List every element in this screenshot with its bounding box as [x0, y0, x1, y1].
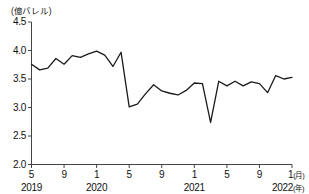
chart-series-lines: [32, 51, 293, 122]
y-axis-tick-label: 2.5: [2, 130, 26, 141]
y-axis-tick-label: 3.5: [2, 73, 26, 84]
x-axis-tick-label: 5: [117, 169, 141, 180]
y-axis-ticks: [28, 22, 32, 165]
chart-axes: [32, 22, 293, 165]
x-axis-tick-label: 1: [182, 169, 206, 180]
x-axis-tick-suffix: (月): [293, 171, 304, 180]
x-axis-year-suffix: (年): [293, 184, 304, 193]
x-axis-tick-label: 9: [247, 169, 271, 180]
y-axis-tick-label: 4.5: [2, 16, 26, 27]
x-axis-tick-label: 9: [52, 169, 76, 180]
x-axis-year-label: 2021: [172, 182, 216, 193]
x-axis-year-label: 2019: [10, 182, 54, 193]
x-axis-year-label: 2020: [75, 182, 119, 193]
x-axis-tick-label: 5: [215, 169, 239, 180]
x-axis-year-label: 2022(年): [272, 182, 309, 193]
x-axis-tick-label: 1(月): [288, 169, 309, 180]
x-axis-ticks: [32, 165, 293, 169]
y-axis-tick-label: 3.0: [2, 102, 26, 113]
y-axis-tick-label: 4.0: [2, 45, 26, 56]
x-axis-tick-label: 9: [150, 169, 174, 180]
x-axis-tick-label: 1: [85, 169, 109, 180]
x-axis-tick-label: 5: [20, 169, 44, 180]
series-line-0: [32, 51, 293, 122]
oil-import-line-chart: (億バレル) 4.54.03.53.02.52.0 591591591(月) 2…: [0, 0, 309, 194]
chart-plot-area: [0, 0, 309, 194]
